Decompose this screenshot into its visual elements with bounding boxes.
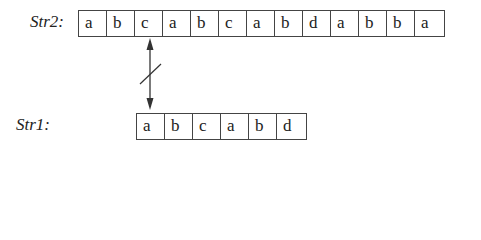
str1-cell: b xyxy=(249,114,277,139)
str1-cell: b xyxy=(165,114,193,139)
str1-cell: a xyxy=(221,114,249,139)
str1-row: a b c a b d xyxy=(136,113,307,140)
str1-label: Str1: xyxy=(16,115,50,135)
str1-cell: d xyxy=(277,114,306,139)
str1-cell: a xyxy=(137,114,165,139)
str1-cell: c xyxy=(193,114,221,139)
